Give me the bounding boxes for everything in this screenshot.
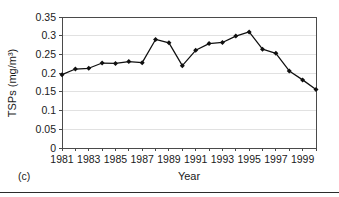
x-axis-title: Year [178, 170, 201, 182]
y-tick-label: 0 [50, 142, 56, 154]
data-line [62, 32, 316, 90]
data-point-marker [126, 59, 131, 64]
data-markers-group [60, 29, 319, 92]
x-tick-label: 1985 [104, 153, 128, 165]
data-point-marker [140, 60, 145, 65]
y-tick-label: 0.15 [36, 85, 57, 97]
x-tick-label: 1981 [50, 153, 74, 165]
y-tick-label: 0.2 [41, 67, 56, 79]
data-point-marker [100, 61, 105, 66]
data-point-marker [73, 67, 78, 72]
x-tick-label: 1995 [237, 153, 261, 165]
x-tick-label: 1993 [211, 153, 235, 165]
tsps-time-series-chart: 00.050.10.150.20.250.30.35 1981198319851… [0, 0, 339, 197]
y-tick-label: 0.25 [36, 48, 57, 60]
data-line-group [62, 32, 316, 90]
x-tick-label: 1989 [157, 153, 181, 165]
gridlines-group [62, 17, 316, 129]
panel-label: (c) [18, 170, 30, 182]
y-tick-label: 0.1 [41, 104, 56, 116]
bottom-divider [0, 192, 339, 193]
x-tick-label: 1997 [264, 153, 288, 165]
data-point-marker [220, 40, 225, 45]
x-tick-label: 1987 [131, 153, 155, 165]
y-tick-label: 0.3 [41, 29, 56, 41]
x-tick-labels-group: 1981198319851987198919911993199519971999 [50, 153, 314, 165]
axis-lines-group [62, 17, 316, 148]
data-point-marker [207, 41, 212, 46]
y-tick-label: 0.35 [36, 11, 57, 23]
figure-panel: 00.050.10.150.20.250.30.35 1981198319851… [0, 0, 339, 197]
y-axis-title: TSPs (mg/m³) [6, 49, 18, 117]
y-tick-label: 0.05 [36, 123, 57, 135]
x-tick-label: 1999 [291, 153, 315, 165]
y-tick-labels-group: 00.050.10.150.20.250.30.35 [36, 11, 57, 154]
data-point-marker [86, 66, 91, 71]
data-point-marker [153, 37, 158, 42]
x-tick-label: 1991 [184, 153, 208, 165]
data-point-marker [113, 61, 118, 66]
data-point-marker [233, 34, 238, 39]
data-point-marker [166, 40, 171, 45]
x-tick-label: 1983 [77, 153, 101, 165]
